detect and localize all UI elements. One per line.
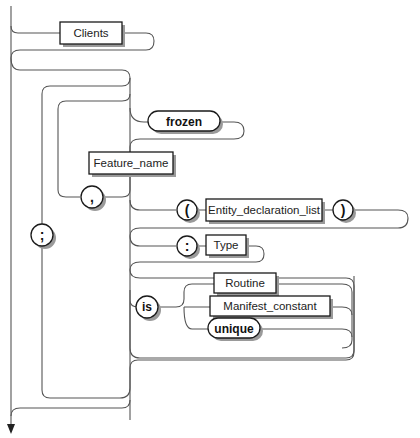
comma-loop xyxy=(58,94,130,197)
type-label: Type xyxy=(214,239,239,251)
exit-arrow-icon xyxy=(7,424,15,434)
is-label: is xyxy=(142,300,152,314)
unique-label: unique xyxy=(214,322,254,336)
comma-label: , xyxy=(90,189,94,205)
entity-declaration-list-label: Entity_declaration_list xyxy=(208,204,321,216)
manifest-constant-label: Manifest_constant xyxy=(223,300,317,312)
colon-label: : xyxy=(185,238,190,254)
feature-name-label: Feature_name xyxy=(94,157,169,169)
close-paren-label: ) xyxy=(341,202,346,218)
semicolon-label: ; xyxy=(40,227,45,243)
syntax-diagram: Clients frozen Feature_name , ( Entity_d… xyxy=(0,0,420,438)
clients-label: Clients xyxy=(73,27,108,39)
frozen-label: frozen xyxy=(166,115,202,129)
open-paren-label: ( xyxy=(185,202,190,218)
routine-label: Routine xyxy=(225,277,265,289)
